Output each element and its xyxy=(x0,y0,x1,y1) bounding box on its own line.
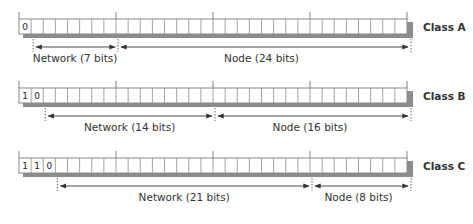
class-row-class-b: 10Class BNetwork (14 bits)Node (16 bits) xyxy=(19,81,466,133)
class-row-class-c: 110Class CNetwork (21 bits)Node (8 bits) xyxy=(19,151,466,203)
prefix-bit: 1 xyxy=(22,91,28,101)
bar-shadow-side xyxy=(407,22,413,38)
prefix-bit: 1 xyxy=(22,161,28,171)
address-class-diagram: 0Class ANetwork (7 bits)Node (24 bits)10… xyxy=(0,0,473,224)
class-label: Class C xyxy=(423,160,466,172)
node-bits-label: Node (16 bits) xyxy=(273,121,348,133)
bar-shadow xyxy=(23,103,413,107)
network-bits-label: Network (21 bits) xyxy=(139,191,230,203)
bar-shadow-side xyxy=(407,91,413,107)
prefix-bit: 0 xyxy=(34,91,40,101)
network-bits-label: Network (14 bits) xyxy=(84,121,175,133)
bar-shadow xyxy=(23,173,413,177)
node-bits-label: Node (8 bits) xyxy=(324,191,392,203)
network-bits-label: Network (7 bits) xyxy=(33,52,118,64)
class-row-class-a: 0Class ANetwork (7 bits)Node (24 bits) xyxy=(19,12,467,64)
class-label: Class B xyxy=(423,90,466,102)
prefix-bit: 0 xyxy=(22,22,28,32)
class-label: Class A xyxy=(423,21,467,33)
prefix-bit: 1 xyxy=(34,161,40,171)
bar-shadow-side xyxy=(407,161,413,177)
prefix-bit: 0 xyxy=(46,161,52,171)
bar-shadow xyxy=(23,34,413,38)
node-bits-label: Node (24 bits) xyxy=(224,52,299,64)
